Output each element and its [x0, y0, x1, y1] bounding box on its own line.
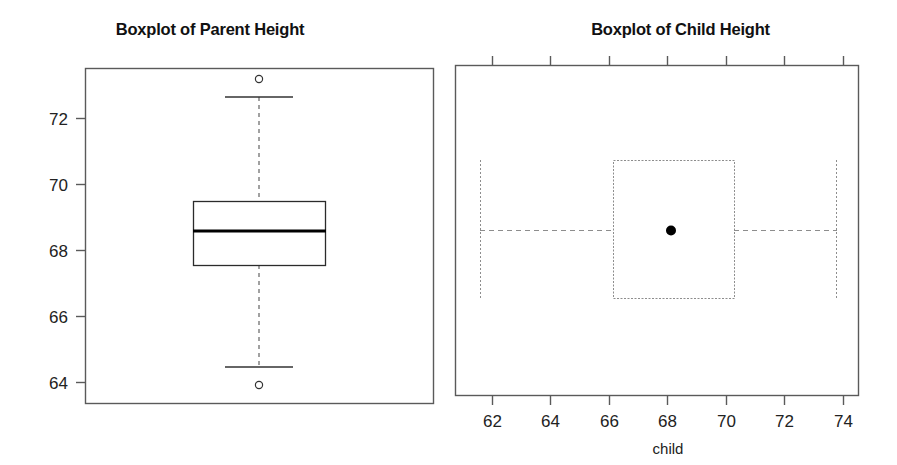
- child-xtick-label-68: 68: [658, 412, 677, 431]
- parent-outlier-low: [255, 381, 262, 388]
- parent-iqr-box: [194, 202, 326, 266]
- child-xtick-label-74: 74: [834, 412, 853, 431]
- child-xtick-label-70: 70: [717, 412, 736, 431]
- parent-outlier-high: [255, 75, 262, 82]
- child-plot-canvas: 62 64 66 68 70 72 74 child: [448, 0, 897, 465]
- child-xtick-label-64: 64: [541, 412, 560, 431]
- parent-ytick-label-72: 72: [49, 110, 68, 129]
- parent-ytick-label-70: 70: [49, 176, 68, 195]
- child-x-axis-title: child: [653, 440, 684, 457]
- child-xtick-label-66: 66: [600, 412, 619, 431]
- parent-plot-canvas: 72 70 68 66 64: [0, 0, 448, 465]
- parent-ytick-label-68: 68: [49, 242, 68, 261]
- parent-ytick-label-64: 64: [49, 374, 68, 393]
- parent-ytick-label-66: 66: [49, 308, 68, 327]
- parent-height-panel: Boxplot of Parent Height 72 70 68 66 64: [0, 0, 448, 465]
- child-median-dot: [666, 226, 676, 236]
- child-height-panel: Boxplot of Child Height 62 64 66 68 70 7…: [448, 0, 897, 465]
- child-xtick-label-72: 72: [775, 412, 794, 431]
- child-xtick-label-62: 62: [483, 412, 502, 431]
